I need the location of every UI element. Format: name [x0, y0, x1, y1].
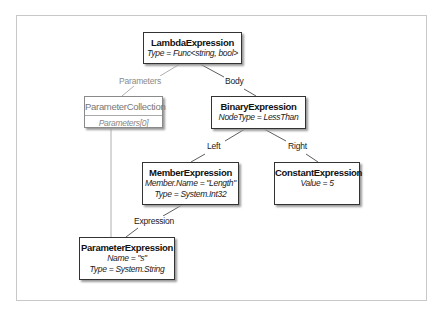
edge-label-left: Left [206, 141, 221, 151]
node-title: MemberExpression [143, 167, 238, 178]
node-parameter-expression: ParameterExpression Name = "s" Type = Sy… [79, 237, 175, 280]
node-title: ParameterCollection [85, 101, 162, 112]
node-property: NodeType = LessThan [212, 112, 305, 123]
node-binary-expression: BinaryExpression NodeType = LessThan [211, 96, 306, 129]
node-property: Type = System.Int32 [143, 189, 238, 200]
node-property: Member.Name = "Length" [143, 178, 238, 189]
node-property: Name = "s" [80, 253, 174, 264]
edge-label-parameters: Parameters [118, 76, 162, 86]
node-property: Value = 5 [275, 178, 359, 189]
node-property: Parameters[0] [85, 115, 162, 129]
node-lambda-expression: LambdaExpression Type = Func<string, boo… [143, 32, 242, 64]
node-parameter-collection: ParameterCollection Parameters[0] [84, 96, 163, 128]
node-constant-expression: ConstantExpression Value = 5 [274, 162, 360, 205]
edge-label-expression: Expression [133, 216, 175, 226]
node-property: Type = System.String [80, 264, 174, 275]
node-title: BinaryExpression [212, 101, 305, 112]
node-property: Type = Func<string, bool> [144, 48, 241, 59]
node-member-expression: MemberExpression Member.Name = "Length" … [142, 162, 239, 205]
edge-label-body: Body [224, 76, 245, 86]
node-title: LambdaExpression [144, 37, 241, 48]
node-title: ParameterExpression [80, 242, 174, 253]
edge-label-right: Right [287, 141, 308, 151]
node-title: ConstantExpression [275, 167, 359, 178]
